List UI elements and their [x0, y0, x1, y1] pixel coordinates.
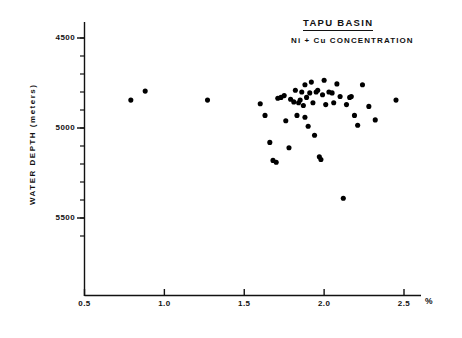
- data-point: [307, 90, 312, 95]
- data-point: [143, 89, 148, 94]
- x-tick-label: 2.5: [393, 299, 415, 308]
- data-point: [323, 102, 328, 107]
- data-point: [302, 115, 307, 120]
- data-point: [274, 160, 279, 165]
- data-point: [318, 157, 323, 162]
- data-point: [293, 88, 298, 93]
- y-tick-label: 5000: [45, 123, 75, 132]
- data-point: [267, 140, 272, 145]
- y-tick-label: 4500: [45, 33, 75, 42]
- data-point: [310, 100, 315, 105]
- data-point: [331, 100, 336, 105]
- data-point: [344, 102, 349, 107]
- x-tick-label: 2.0: [313, 299, 335, 308]
- data-point: [299, 89, 304, 94]
- data-point: [366, 104, 371, 109]
- axis-lines: [85, 22, 422, 296]
- data-point: [355, 123, 360, 128]
- data-point: [298, 98, 303, 103]
- data-point: [322, 78, 327, 83]
- data-point: [312, 133, 317, 138]
- data-point: [294, 113, 299, 118]
- x-tick-label: 1.5: [233, 299, 255, 308]
- y-tick-label: 5500: [45, 213, 75, 222]
- scatter-plot-figure: TAPU BASIN Ni + Cu CONCENTRATION WATER D…: [0, 0, 462, 338]
- data-point: [306, 124, 311, 129]
- x-tick-label: 1.0: [153, 299, 175, 308]
- data-point: [349, 94, 354, 99]
- data-point: [352, 113, 357, 118]
- data-point: [282, 93, 287, 98]
- data-point: [258, 101, 263, 106]
- data-point: [338, 94, 343, 99]
- x-tick-label: 0.5: [74, 299, 96, 308]
- data-point: [360, 82, 365, 87]
- data-point: [205, 98, 210, 103]
- plot-canvas: [0, 0, 462, 338]
- data-point: [128, 98, 133, 103]
- data-point: [304, 95, 309, 100]
- x-axis-unit-label: %: [425, 296, 433, 306]
- data-point: [291, 99, 296, 104]
- data-point: [341, 196, 346, 201]
- data-point: [302, 82, 307, 87]
- data-point: [283, 118, 288, 123]
- data-point: [373, 117, 378, 122]
- data-point: [334, 81, 339, 86]
- data-point: [330, 90, 335, 95]
- data-point: [262, 113, 267, 118]
- data-point: [315, 88, 320, 93]
- data-point: [301, 103, 306, 108]
- data-point: [320, 92, 325, 97]
- data-point-group: [128, 78, 398, 201]
- data-point: [309, 80, 314, 85]
- data-point: [286, 145, 291, 150]
- data-point: [393, 98, 398, 103]
